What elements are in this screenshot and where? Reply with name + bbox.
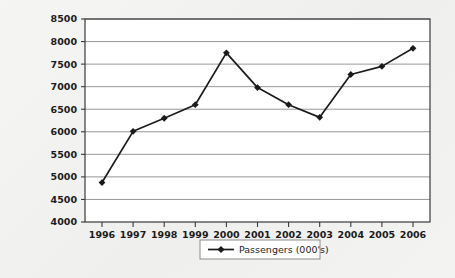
x-tick-label: 2004 [338,229,365,240]
plot-area-background [85,19,430,222]
x-tick-label: 1996 [89,229,116,240]
chart-legend: Passengers (000's) [200,240,329,259]
y-tick-label: 4000 [51,216,78,227]
x-axis-ticks [102,222,413,227]
y-tick-label: 6500 [51,104,78,115]
x-tick-label: 2000 [213,229,240,240]
x-tick-label: 2005 [369,229,395,240]
chart-figure: 4000450050005500600065007000750080008500… [0,0,455,278]
x-tick-label: 2006 [400,229,427,240]
x-tick-label: 2001 [244,229,270,240]
x-tick-label: 1999 [182,229,208,240]
line-chart: 4000450050005500600065007000750080008500… [0,0,455,278]
y-tick-label: 7000 [51,81,78,92]
y-tick-label: 5500 [51,149,78,160]
y-tick-label: 8500 [51,13,78,24]
y-axis-tick-labels: 4000450050005500600065007000750080008500 [51,13,78,227]
x-tick-label: 1998 [151,229,178,240]
x-tick-label: 2003 [306,229,332,240]
y-tick-label: 8000 [51,36,78,47]
y-tick-label: 6000 [51,126,78,137]
x-tick-label: 1997 [120,229,146,240]
y-tick-label: 7500 [51,59,78,70]
y-tick-label: 5000 [51,171,78,182]
x-tick-label: 2002 [275,229,301,240]
x-axis-tick-labels: 1996199719981999200020012002200320042005… [89,229,427,240]
y-tick-label: 4500 [51,194,78,205]
legend-label-passengers: Passengers (000's) [239,244,329,255]
